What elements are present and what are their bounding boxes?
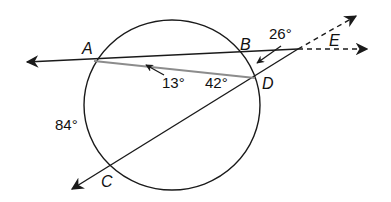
dashed-ray-upper	[298, 16, 356, 49]
secant-line-ab	[27, 49, 298, 62]
label-angle-26: 26°	[269, 25, 292, 42]
label-point-e: E	[329, 32, 340, 49]
label-arc-84: 84°	[55, 116, 78, 133]
label-point-c: C	[101, 173, 113, 190]
pointer-arrow-26	[257, 46, 281, 63]
label-point-d: D	[262, 75, 274, 92]
label-angle-13: 13°	[162, 74, 185, 91]
label-point-b: B	[240, 36, 251, 53]
geometry-diagram: A B C D E 13° 42° 26° 84°	[0, 0, 391, 202]
label-point-a: A	[81, 40, 93, 57]
label-angle-42: 42°	[205, 74, 228, 91]
